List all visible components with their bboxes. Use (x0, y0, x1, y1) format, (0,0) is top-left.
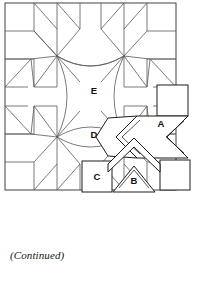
pattern-page: E D A B C (0, 0, 199, 296)
template-square-bottom (160, 160, 190, 190)
label-C: C (94, 171, 101, 182)
label-E: E (91, 85, 97, 96)
label-A: A (158, 118, 165, 129)
continued-caption: (Continued) (10, 249, 64, 261)
template-square-top (157, 85, 188, 116)
label-B: B (131, 175, 138, 186)
